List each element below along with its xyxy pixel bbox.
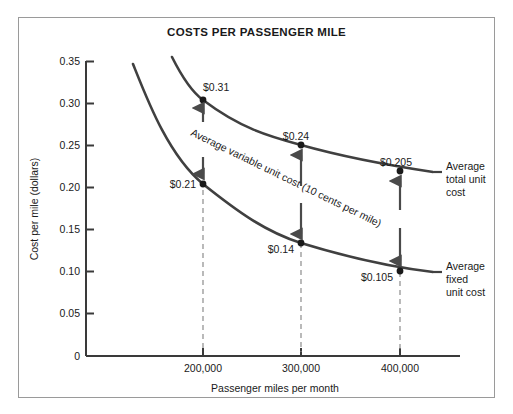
y-axis-ticks	[86, 62, 94, 314]
y-tick-label-020: 0.20	[60, 181, 81, 193]
legend-fixed-line-1: Average	[446, 260, 485, 272]
label-total-400000: $0.205	[380, 156, 412, 168]
label-total-200000: $0.31	[203, 81, 229, 93]
x-tick-label-300000: 300,000	[282, 362, 320, 374]
point-fixed-400000	[397, 268, 404, 275]
legend-fixed-line-3: unit cost	[446, 286, 485, 298]
y-tick-label-030: 0.30	[60, 97, 81, 109]
y-tick-label-0: 0	[74, 350, 80, 362]
legend-average-fixed-unit-cost: Average fixed unit cost	[434, 260, 485, 298]
figure-root: COSTS PER PASSENGER MILE 0.35 0.30 0.25 …	[0, 0, 513, 414]
label-fixed-300000: $0.14	[268, 243, 294, 255]
curve-average-total-unit-cost	[172, 57, 433, 172]
point-fixed-300000	[298, 240, 305, 247]
point-total-300000	[298, 142, 305, 149]
x-tick-label-200000: 200,000	[184, 362, 222, 374]
y-tick-label-015: 0.15	[60, 223, 81, 235]
point-total-400000	[397, 168, 404, 175]
y-axis-title: Cost per mile (dollars)	[28, 158, 40, 261]
x-tick-label-400000: 400,000	[381, 362, 419, 374]
x-axis-title: Passenger miles per month	[211, 382, 339, 394]
label-fixed-400000: $0.105	[361, 271, 393, 283]
legend-fixed-line-2: fixed	[446, 273, 468, 285]
y-tick-label-010: 0.10	[60, 265, 81, 277]
label-total-300000: $0.24	[283, 130, 309, 142]
legend-total-line-1: Average	[446, 160, 485, 172]
y-tick-label-005: 0.05	[60, 307, 81, 319]
chart-plot-area: 0.35 0.30 0.25 0.20 0.15 0.10 0.05 0 Cos…	[0, 0, 513, 414]
legend-total-line-3: cost	[446, 186, 465, 198]
point-total-200000	[200, 97, 207, 104]
y-tick-label-025: 0.25	[60, 139, 81, 151]
legend-average-total-unit-cost: Average total unit cost	[434, 160, 486, 198]
y-tick-label-035: 0.35	[60, 55, 81, 67]
curve-average-fixed-unit-cost	[133, 64, 433, 272]
label-fixed-200000: $0.21	[170, 178, 196, 190]
point-fixed-200000	[200, 181, 207, 188]
legend-total-line-2: total unit	[446, 173, 486, 185]
